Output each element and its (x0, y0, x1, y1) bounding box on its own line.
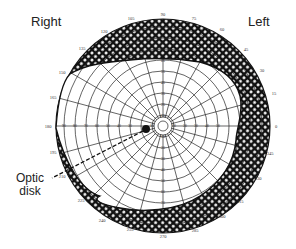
svg-text:70: 70 (161, 201, 165, 205)
svg-text:30: 30 (161, 92, 165, 96)
optic-disk-label-line2: disk (16, 185, 44, 198)
svg-text:255: 255 (127, 227, 135, 232)
svg-text:10: 10 (161, 135, 165, 139)
svg-text:30: 30 (128, 124, 132, 128)
svg-text:60: 60 (161, 59, 165, 63)
svg-text:30: 30 (194, 124, 198, 128)
svg-text:180: 180 (45, 124, 53, 129)
svg-text:330: 330 (255, 176, 263, 181)
svg-text:60: 60 (95, 124, 99, 128)
svg-text:50: 50 (161, 179, 165, 183)
svg-text:60: 60 (220, 27, 225, 32)
svg-text:105: 105 (128, 16, 136, 21)
left-eye-label: Left (248, 14, 270, 29)
svg-text:45: 45 (244, 47, 249, 52)
svg-text:80: 80 (73, 124, 77, 128)
svg-text:20: 20 (161, 146, 165, 150)
svg-text:270: 270 (160, 234, 168, 239)
svg-text:300: 300 (219, 214, 227, 219)
svg-text:10: 10 (172, 124, 176, 128)
svg-text:20: 20 (183, 124, 187, 128)
svg-text:0: 0 (275, 124, 278, 129)
svg-text:315: 315 (237, 199, 245, 204)
right-eye-label: Right (31, 14, 61, 29)
svg-text:60: 60 (161, 190, 165, 194)
svg-text:50: 50 (161, 70, 165, 74)
svg-text:10: 10 (161, 114, 165, 118)
svg-text:40: 40 (117, 124, 121, 128)
svg-text:195: 195 (50, 150, 58, 155)
svg-text:285: 285 (192, 228, 200, 233)
svg-text:70: 70 (84, 124, 88, 128)
svg-text:75: 75 (192, 16, 197, 21)
svg-text:50: 50 (106, 124, 110, 128)
svg-text:345: 345 (267, 151, 275, 156)
svg-text:40: 40 (205, 124, 209, 128)
optic-disk-label: Optic disk (16, 172, 44, 198)
svg-text:10: 10 (150, 124, 154, 128)
svg-text:20: 20 (161, 103, 165, 107)
svg-text:40: 40 (161, 81, 165, 85)
svg-text:150: 150 (59, 70, 67, 75)
svg-text:30: 30 (260, 68, 265, 73)
svg-text:40: 40 (161, 168, 165, 172)
visual-field-diagram: 0 15 30 45 60 75 90 105 120 135 150 165 … (0, 0, 296, 249)
svg-text:50: 50 (216, 124, 220, 128)
svg-text:240: 240 (99, 218, 107, 223)
svg-text:15: 15 (272, 91, 277, 96)
svg-text:120: 120 (101, 29, 109, 34)
svg-text:210: 210 (59, 174, 67, 179)
svg-text:30: 30 (161, 157, 165, 161)
optic-disk-marker (142, 125, 150, 133)
svg-text:225: 225 (78, 198, 86, 203)
svg-text:165: 165 (50, 95, 58, 100)
svg-text:90: 90 (62, 124, 66, 128)
svg-text:90: 90 (161, 12, 166, 17)
svg-text:135: 135 (79, 46, 87, 51)
